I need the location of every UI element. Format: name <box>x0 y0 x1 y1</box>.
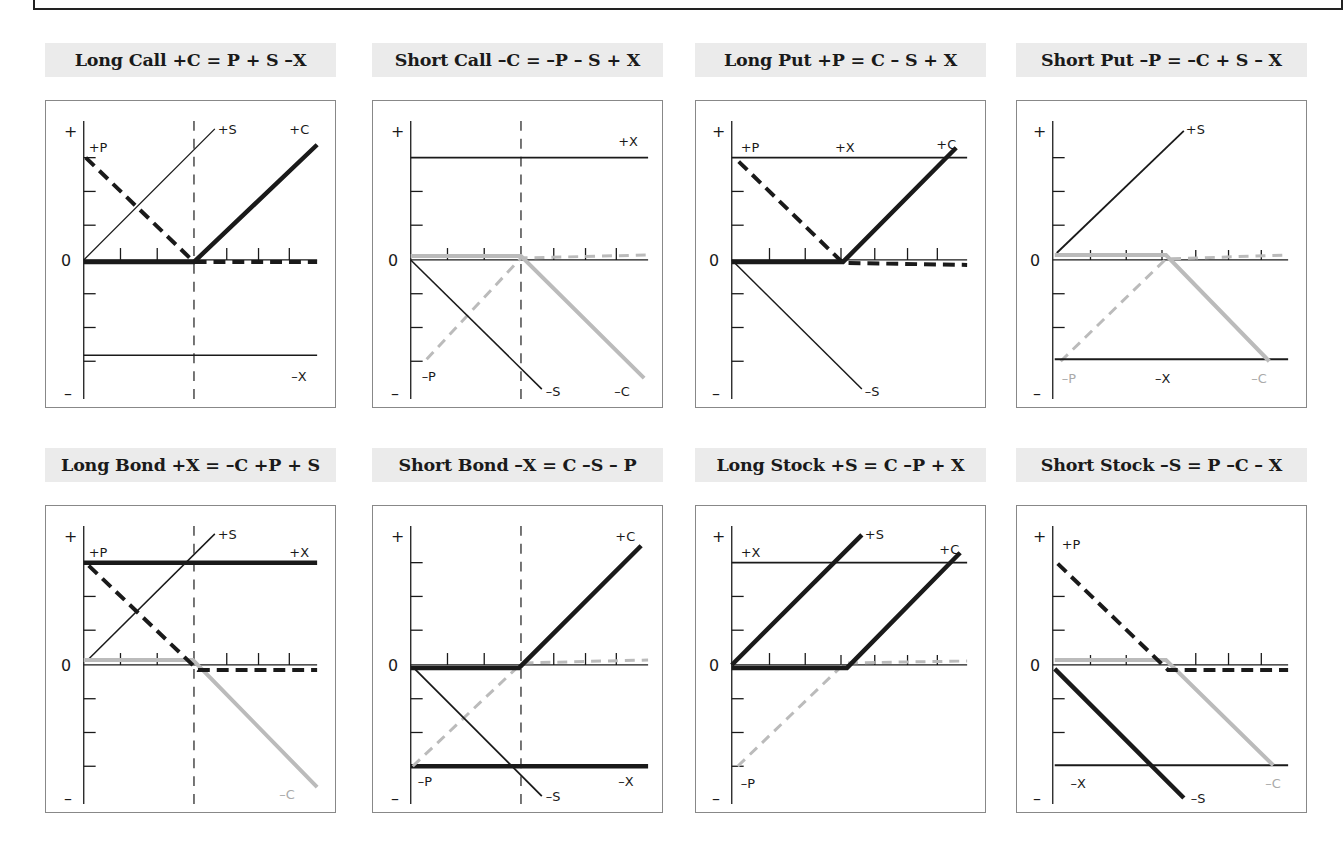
panel-title: Long Stock +S = C –P + X <box>695 448 986 482</box>
series-label: +C <box>289 122 309 137</box>
series-label: +X <box>741 545 761 560</box>
series-label: –X <box>1155 371 1170 386</box>
axis-zero-label: 0 <box>1030 251 1040 270</box>
axis-minus-label: – <box>1033 789 1041 808</box>
series-label: +X <box>835 140 855 155</box>
series-label: –P <box>1062 371 1076 386</box>
series-plus-c <box>732 148 956 262</box>
axis-plus-label: + <box>712 122 725 141</box>
axis-plus-label: + <box>64 527 77 546</box>
axis-plus-label: + <box>64 122 77 141</box>
series-label: +S <box>865 527 884 542</box>
header-frame <box>33 0 1343 10</box>
series-label: –X <box>291 369 306 384</box>
series-label: +C <box>615 529 635 544</box>
panel-title: Long Put +P = C – S + X <box>695 43 986 77</box>
panel-title: Short Stock –S = P –C – X <box>1016 448 1307 482</box>
series-label: –P <box>418 774 432 789</box>
axis-minus-label: – <box>64 789 72 808</box>
chart-svg: + 0 – +X –P –S –C <box>373 101 662 407</box>
payoff-chart: + 0 – +P –X –S –C <box>1016 505 1307 813</box>
series-label: –C <box>1265 776 1280 791</box>
axis-plus-label: + <box>712 527 725 546</box>
axis-zero-label: 0 <box>61 656 71 675</box>
panel-title: Long Call +C = P + S –X <box>45 43 336 77</box>
series-label: –S <box>546 384 561 399</box>
payoff-chart: + 0 – +S –P –X –C <box>1016 100 1307 408</box>
series-label: +P <box>1062 537 1081 552</box>
series-minus-c <box>411 256 644 378</box>
series-label: –C <box>1251 371 1266 386</box>
axis-zero-label: 0 <box>1030 656 1040 675</box>
series-label: –P <box>422 369 436 384</box>
series-label: +S <box>1186 122 1205 137</box>
chart-svg: + 0 – +P +X +C –S <box>696 101 985 407</box>
series-label: +P <box>89 545 108 560</box>
series-label: –S <box>546 789 561 804</box>
series-label: –S <box>865 384 880 399</box>
series-plus-p <box>86 158 317 262</box>
axis-zero-label: 0 <box>388 251 398 270</box>
series-label: +C <box>939 542 959 557</box>
chart-svg: + 0 – +P +S +C –X <box>46 101 335 407</box>
series-minus-p <box>738 661 967 766</box>
panel-title: Short Bond –X = C –S – P <box>372 448 663 482</box>
series-plus-c <box>411 546 641 668</box>
payoff-chart: + 0 – +X –P –S –C <box>372 100 663 408</box>
series-label: –C <box>614 384 629 399</box>
payoff-chart: + 0 – +P +X +C –S <box>695 100 986 408</box>
series-label: –X <box>1071 776 1086 791</box>
axis-zero-label: 0 <box>709 656 719 675</box>
axis-minus-label: – <box>712 384 720 403</box>
chart-svg: + 0 – +P +S +X –C <box>46 506 335 812</box>
axis-minus-label: – <box>1033 384 1041 403</box>
axis-minus-label: – <box>64 384 72 403</box>
axis-minus-label: – <box>391 384 399 403</box>
series-label: +X <box>289 545 309 560</box>
series-plus-s <box>1057 131 1184 253</box>
series-label: –S <box>1191 791 1206 806</box>
series-minus-s <box>413 667 542 796</box>
series-minus-c <box>1055 255 1270 361</box>
axis-plus-label: + <box>391 527 404 546</box>
series-plus-p <box>89 566 317 670</box>
series-label: –P <box>741 776 755 791</box>
chart-svg: + 0 – +P –X –S –C <box>1017 506 1306 812</box>
axis-zero-label: 0 <box>388 656 398 675</box>
payoff-chart: + 0 – +C –P –S –X <box>372 505 663 813</box>
axis-minus-label: – <box>712 789 720 808</box>
axis-plus-label: + <box>1033 527 1046 546</box>
axis-zero-label: 0 <box>61 251 71 270</box>
panel-title: Short Put –P = –C + S – X <box>1016 43 1307 77</box>
payoff-chart: + 0 – +P +S +C –X <box>45 100 336 408</box>
series-minus-c <box>84 660 317 787</box>
chart-svg: + 0 – +C –P –S –X <box>373 506 662 812</box>
payoff-chart: + 0 – +X +S +C –P <box>695 505 986 813</box>
series-minus-s <box>732 260 862 389</box>
series-label: +P <box>741 140 760 155</box>
payoff-chart: + 0 – +P +S +X –C <box>45 505 336 813</box>
series-label: +C <box>936 137 956 152</box>
series-plus-p <box>1058 564 1288 670</box>
chart-svg: + 0 – +S –P –X –C <box>1017 101 1306 407</box>
series-minus-c <box>1055 660 1273 765</box>
series-label: –X <box>618 774 633 789</box>
series-minus-p <box>413 660 648 766</box>
axis-zero-label: 0 <box>709 251 719 270</box>
series-label: +P <box>89 140 108 155</box>
series-plus-c <box>84 145 317 262</box>
axis-minus-label: – <box>391 789 399 808</box>
axis-plus-label: + <box>1033 122 1046 141</box>
chart-svg: + 0 – +X +S +C –P <box>696 506 985 812</box>
series-label: –C <box>279 787 294 802</box>
series-plus-c <box>732 553 960 668</box>
series-label: +X <box>618 134 638 149</box>
panel-title: Short Call –C = –P – S + X <box>372 43 663 77</box>
axis-plus-label: + <box>391 122 404 141</box>
series-label: +S <box>218 527 237 542</box>
series-label: +S <box>218 122 237 137</box>
panel-title: Long Bond +X = –C +P + S <box>45 448 336 482</box>
